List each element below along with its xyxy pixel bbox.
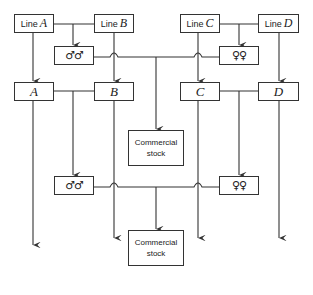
b-box: B (94, 82, 134, 101)
female-box-upper: ♀♀ (219, 46, 259, 65)
a-box: A (14, 82, 54, 101)
female-icon: ♀♀ (232, 179, 246, 192)
commercial-stock-2-line2: stock (147, 248, 166, 259)
line-a-prefix: Line (21, 19, 38, 29)
line-b-prefix: Line (101, 19, 118, 29)
a-label: A (30, 84, 38, 100)
d-box: D (258, 82, 299, 101)
line-a-box: LineA (14, 14, 54, 33)
line-a-letter: A (40, 16, 47, 31)
line-d-box: LineD (258, 14, 299, 33)
male-box-upper: ♂♂ (54, 46, 94, 65)
line-b-letter: B (120, 16, 127, 31)
line-c-prefix: Line (186, 19, 203, 29)
female-icon: ♀♀ (232, 49, 246, 62)
male-box-lower: ♂♂ (54, 176, 94, 195)
line-d-letter: D (284, 16, 293, 31)
c-label: C (196, 84, 205, 100)
line-c-box: LineC (180, 14, 220, 33)
commercial-stock-1-line1: Commercial (135, 137, 178, 148)
line-d-prefix: Line (265, 19, 282, 29)
female-box-lower: ♀♀ (219, 176, 259, 195)
commercial-stock-1-line2: stock (147, 148, 166, 159)
male-icon: ♂♂ (65, 49, 83, 62)
line-b-box: LineB (94, 14, 134, 33)
d-label: D (274, 84, 283, 100)
b-label: B (110, 84, 118, 100)
commercial-stock-box-2: Commercial stock (128, 230, 184, 266)
commercial-stock-2-line1: Commercial (135, 237, 178, 248)
commercial-stock-box-1: Commercial stock (128, 130, 184, 166)
male-icon: ♂♂ (65, 179, 83, 192)
line-c-letter: C (206, 16, 214, 31)
c-box: C (180, 82, 220, 101)
